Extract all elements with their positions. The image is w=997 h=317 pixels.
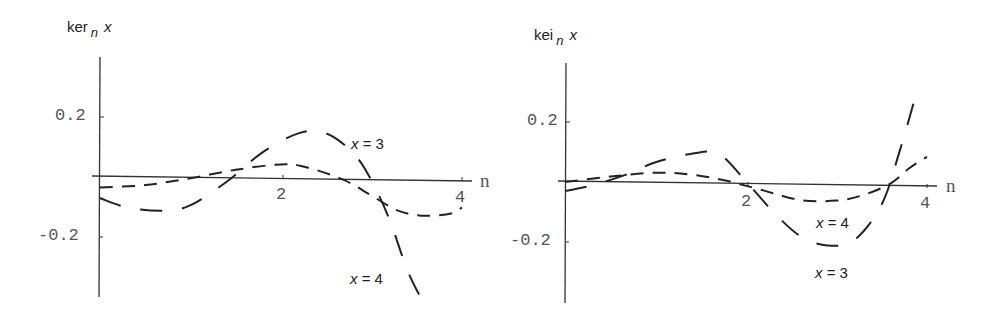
x-tick-label-4: 4	[920, 194, 930, 213]
y-tick-label-neg0.2: -0.2	[38, 226, 79, 245]
label-var: x	[351, 135, 359, 152]
ylabel-subscript: n	[91, 25, 98, 40]
chart-kei: keinx 0.2 -0.2 2 4 n x = 4 x = 3	[495, 0, 997, 317]
curve-label-x3: x = 3	[815, 264, 848, 281]
x-axis-name: n	[946, 175, 956, 197]
ylabel-subscript: n	[556, 33, 563, 48]
chart-ker: kernx 0.2 -0.2 2 4 n x = 3 x = 4	[0, 0, 495, 317]
curve-x3-kei	[565, 88, 918, 246]
label-var: x	[816, 214, 824, 231]
y-tick-label-neg0.2: -0.2	[510, 231, 551, 250]
label-rest: = 3	[363, 135, 384, 152]
x-axis	[92, 176, 472, 181]
x-tick-label-2: 2	[276, 185, 286, 204]
label-var: x	[815, 264, 823, 281]
y-axis	[565, 63, 566, 303]
ylabel-base: ker	[67, 18, 88, 35]
curve-label-x4: x = 4	[816, 214, 849, 231]
label-rest: = 4	[362, 270, 383, 287]
curve-label-x4: x = 4	[350, 270, 383, 287]
label-var: x	[350, 270, 358, 287]
plot-area-ker	[0, 0, 495, 317]
ylabel-var: x	[104, 18, 112, 35]
x-axis-name: n	[480, 170, 490, 192]
y-axis	[99, 57, 100, 297]
y-axis-label-ker: kernx	[67, 18, 112, 35]
label-rest: = 3	[827, 264, 848, 281]
x-tick-label-4: 4	[455, 188, 465, 207]
y-tick-label-0.2: 0.2	[55, 106, 86, 125]
ylabel-base: kei	[534, 26, 553, 43]
curve-label-x3: x = 3	[351, 135, 384, 152]
y-tick-label-0.2: 0.2	[527, 111, 558, 130]
label-rest: = 4	[828, 214, 849, 231]
plot-area-kei	[495, 0, 997, 317]
ylabel-var: x	[569, 26, 577, 43]
x-tick-label-2: 2	[741, 192, 751, 211]
y-axis-label-kei: keinx	[534, 26, 577, 43]
